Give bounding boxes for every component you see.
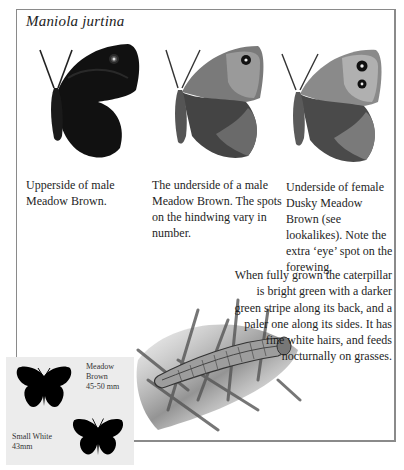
meadow-brown-name: Meadow Brown bbox=[86, 362, 116, 382]
small-white-size: 43mm bbox=[12, 442, 52, 452]
small-white-silhouette-icon bbox=[70, 413, 126, 459]
caption-upperside-male: Upperside of male Meadow Brown. bbox=[26, 177, 146, 209]
small-white-name: Small White bbox=[12, 432, 52, 442]
butterfly-underside-female-dusky-illustration bbox=[276, 40, 392, 168]
caterpillar-description: When fully grown the caterpillar is brig… bbox=[232, 267, 392, 365]
meadow-brown-size-label: Meadow Brown 45-50 mm bbox=[86, 362, 119, 392]
butterfly-underside-male-illustration bbox=[156, 38, 272, 166]
butterfly-upperside-male-illustration bbox=[28, 38, 144, 166]
meadow-brown-silhouette-icon bbox=[14, 362, 74, 412]
size-comparison-inset: Meadow Brown 45-50 mm Small White 43mm bbox=[6, 357, 134, 465]
species-title: Maniola jurtina bbox=[26, 13, 124, 30]
caption-underside-male: The underside of a male Meadow Brown. Th… bbox=[152, 177, 282, 241]
meadow-brown-size: 45-50 mm bbox=[86, 382, 119, 392]
caption-underside-female-dusky: Underside of female Dusky Meadow Brown (… bbox=[286, 179, 396, 275]
small-white-size-label: Small White 43mm bbox=[12, 432, 52, 452]
